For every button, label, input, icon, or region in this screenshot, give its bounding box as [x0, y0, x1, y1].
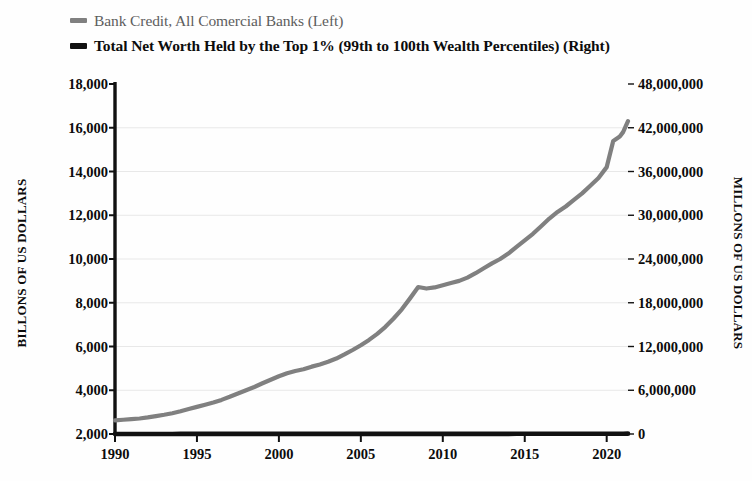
axis-lines [115, 82, 628, 434]
plot-area [0, 0, 752, 481]
gridlines [115, 128, 628, 434]
chart-container: Bank Credit, All Comercial Banks (Left) … [0, 0, 752, 481]
axis-tickmarks [109, 84, 634, 442]
series-line-bank-credit [115, 121, 628, 420]
